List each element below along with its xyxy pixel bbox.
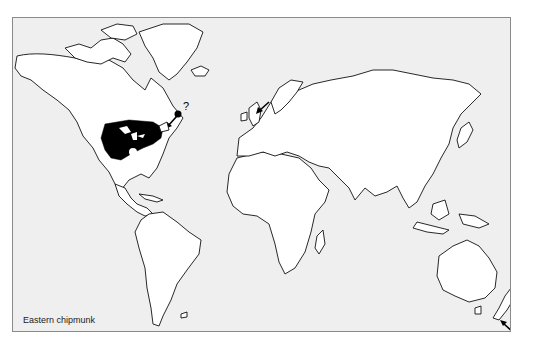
caribbean: [139, 194, 163, 202]
borneo: [431, 200, 449, 220]
chesapeake-gap: [129, 148, 137, 156]
madagascar: [315, 230, 325, 254]
great-britain: [249, 102, 261, 126]
new-zealand: [493, 288, 511, 320]
new-guinea: [459, 214, 489, 228]
falkland-islands: [181, 312, 187, 318]
australia: [437, 240, 497, 302]
arctic-islands-north: [101, 24, 137, 40]
map-caption: Eastern chipmunk: [23, 315, 95, 325]
question-mark: ?: [183, 100, 189, 112]
world-map: ? Eastern chipmunk: [12, 17, 511, 332]
ireland: [241, 112, 247, 121]
world-map-svg: ?: [13, 18, 511, 332]
japan: [457, 122, 473, 148]
north-america: [15, 54, 183, 190]
africa: [227, 152, 329, 274]
iceland: [191, 66, 209, 76]
tasmania: [475, 306, 481, 314]
south-america: [135, 212, 201, 326]
indonesia: [413, 222, 449, 234]
